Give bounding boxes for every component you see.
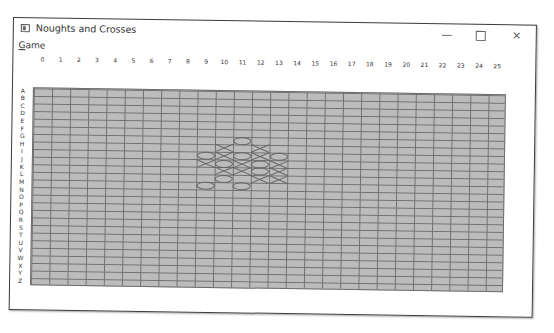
row-header: C <box>18 102 28 109</box>
column-header: 12 <box>252 59 270 66</box>
column-header: 13 <box>270 59 288 66</box>
window-title: Noughts and Crosses <box>36 22 137 34</box>
row-header: S <box>16 224 26 231</box>
row-header: I <box>17 147 27 154</box>
maximize-icon <box>476 31 486 41</box>
row-header: N <box>16 186 26 193</box>
column-header: 16 <box>324 60 342 67</box>
column-header: 17 <box>343 60 361 67</box>
close-icon: ✕ <box>512 29 521 42</box>
nought-mark <box>195 181 215 191</box>
column-header: 2 <box>70 56 88 63</box>
menu-bar: Game <box>18 40 45 54</box>
column-header: 24 <box>470 62 488 69</box>
row-header: R <box>16 216 26 223</box>
column-header: 25 <box>488 62 506 69</box>
nought-mark <box>232 182 252 192</box>
column-header: 11 <box>233 58 251 65</box>
row-header: K <box>17 163 27 170</box>
column-header: 22 <box>434 61 452 68</box>
column-header: 18 <box>361 60 379 67</box>
row-header: V <box>15 246 25 253</box>
column-header: 15 <box>306 59 324 66</box>
row-header: E <box>17 117 27 124</box>
column-header: 8 <box>179 57 197 64</box>
minimize-icon: — <box>441 28 452 41</box>
column-header: 7 <box>161 57 179 64</box>
menu-game[interactable]: Game <box>19 40 46 50</box>
row-header: J <box>17 155 27 162</box>
column-header: 20 <box>397 61 415 68</box>
app-window-icon <box>21 24 30 32</box>
row-header: Z <box>15 277 25 284</box>
row-header: L <box>17 170 27 177</box>
row-header: F <box>17 125 27 132</box>
column-header: 6 <box>142 57 160 64</box>
row-header: H <box>17 140 27 147</box>
row-header: T <box>16 231 26 238</box>
row-header: U <box>16 239 26 246</box>
column-header: 21 <box>415 61 433 68</box>
close-button[interactable]: ✕ <box>502 27 532 45</box>
row-header: G <box>17 132 27 139</box>
row-header: Y <box>15 269 25 276</box>
column-header: 10 <box>215 58 233 65</box>
row-header: W <box>15 254 25 261</box>
row-header: B <box>18 94 28 101</box>
game-board[interactable] <box>30 87 506 292</box>
row-header: D <box>18 109 28 116</box>
title-bar[interactable]: Noughts and Crosses — ✕ <box>14 18 536 48</box>
column-header: 9 <box>197 58 215 65</box>
row-header: P <box>16 201 26 208</box>
row-header: X <box>15 262 25 269</box>
column-header: 14 <box>288 59 306 66</box>
column-header: 4 <box>106 56 124 63</box>
minimize-button[interactable]: — <box>432 26 462 44</box>
column-header: 1 <box>52 56 70 63</box>
column-header: 19 <box>379 60 397 67</box>
game-window: Noughts and Crosses — ✕ Game 01234567891… <box>9 17 537 318</box>
menu-game-label: ame <box>25 40 45 50</box>
column-header: 5 <box>124 57 142 64</box>
row-header: O <box>16 193 26 200</box>
column-header: 0 <box>33 55 51 62</box>
row-header: A <box>18 87 28 94</box>
column-header: 3 <box>88 56 106 63</box>
row-header: M <box>17 178 27 185</box>
column-header: 23 <box>452 62 470 69</box>
maximize-button[interactable] <box>466 27 496 45</box>
row-header: Q <box>16 208 26 215</box>
cross-mark <box>268 175 288 185</box>
